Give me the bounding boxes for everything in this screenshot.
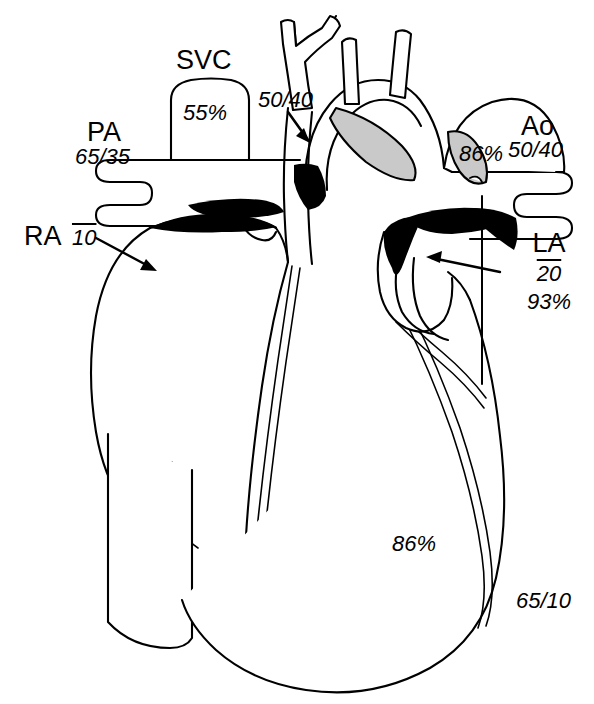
la-label: LA <box>513 228 585 259</box>
la-mean-pressure-value: 20 <box>513 261 585 287</box>
cardiac-hemodynamics-figure: SVC 55% PA 65/35 50/40 RA 10 Ao 50/40 86… <box>0 0 594 704</box>
lv-saturation-value: 86% <box>392 532 436 556</box>
pulmonary-trunk-pressure-value: 50/40 <box>258 88 313 112</box>
ra-label-group: RA 10 <box>24 222 96 251</box>
svc-label: SVC <box>176 46 232 75</box>
la-label-group: LA 20 93% <box>513 228 585 315</box>
ao-saturation-value: 86% <box>459 142 503 166</box>
main-pulmonary-trunk-left-wall <box>284 108 288 262</box>
inferior-vena-cava <box>108 434 192 648</box>
pa-label: PA <box>87 118 121 147</box>
pa-pressure-value: 65/35 <box>75 145 130 169</box>
svc-saturation-value: 55% <box>183 101 227 125</box>
left-common-carotid <box>342 38 359 104</box>
left-ventricle <box>182 300 504 692</box>
lv-pressure-value: 65/10 <box>516 589 571 613</box>
ra-label: RA <box>24 221 62 251</box>
pa-pressure-leader-arrow <box>288 112 310 143</box>
ra-mean-pressure-value: 10 <box>72 225 96 250</box>
la-saturation-value: 93% <box>513 289 585 315</box>
ao-pressure-value: 50/40 <box>508 138 563 162</box>
